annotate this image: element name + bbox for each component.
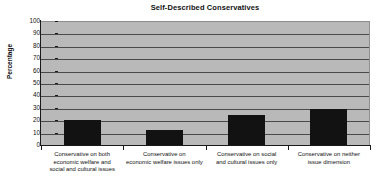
bar <box>228 115 265 145</box>
y-axis-tick-mark <box>55 133 58 134</box>
x-axis-category-label: Conservative on botheconomic welfare and… <box>41 151 123 185</box>
category-label-line: economic welfare and <box>43 159 121 167</box>
y-axis-title: Percentage <box>6 29 13 95</box>
gridline <box>41 96 369 97</box>
y-axis-tick-label: 90 <box>22 30 40 36</box>
category-label-line: issue dimension <box>290 159 368 167</box>
x-axis-tick-mark <box>41 146 42 150</box>
gridline <box>41 84 369 85</box>
category-label-line: Conservative on neither <box>290 151 368 159</box>
y-axis-tick-mark <box>55 46 58 47</box>
x-axis-category-label: Conservative oneconomic welfare issues o… <box>123 151 205 185</box>
category-label-line: economic welfare issues only <box>125 159 203 167</box>
plot-area <box>41 21 370 145</box>
bar <box>64 120 101 145</box>
y-axis-tick-label: 60 <box>22 68 40 74</box>
x-axis-tick-mark <box>370 146 371 150</box>
chart-title: Self-Described Conservatives <box>40 3 370 13</box>
category-label-line: Conservative on <box>125 151 203 159</box>
bar <box>146 130 183 145</box>
category-label-line: social and cultural issues <box>43 166 121 174</box>
y-axis-tick-label: 80 <box>22 43 40 49</box>
y-axis-tick-label: 100 <box>22 18 40 24</box>
y-axis-tick-label: 0 <box>22 142 40 148</box>
bar <box>310 109 347 145</box>
y-axis-tick-label: 30 <box>22 105 40 111</box>
category-label-line: and cultural issues only <box>208 159 286 167</box>
x-axis-tick-mark <box>123 146 124 150</box>
bar-chart: Self-Described Conservatives Percentage … <box>0 0 384 187</box>
category-label-line: Conservative on both <box>43 151 121 159</box>
x-axis-tick-mark <box>206 146 207 150</box>
y-axis-tick-mark <box>55 108 58 109</box>
y-axis-tick-label: 10 <box>22 130 40 136</box>
y-axis-tick-mark <box>55 120 58 121</box>
y-axis-tick-label: 50 <box>22 80 40 86</box>
y-axis-tick-mark <box>55 21 58 22</box>
x-axis-category-labels: Conservative on botheconomic welfare and… <box>41 151 370 185</box>
x-axis-category-label: Conservative on neitherissue dimension <box>288 151 370 185</box>
category-label-line: Conservative on social <box>208 151 286 159</box>
y-axis-tick-label: 40 <box>22 92 40 98</box>
y-axis-tick-mark <box>55 58 58 59</box>
gridline <box>41 34 369 35</box>
y-axis-tick-labels: 1009080706050403020100 <box>18 0 40 187</box>
y-axis-tick-label: 70 <box>22 55 40 61</box>
y-axis-tick-mark <box>55 71 58 72</box>
x-axis-category-label: Conservative on socialand cultural issue… <box>206 151 288 185</box>
y-axis-line <box>40 20 41 146</box>
y-axis-tick-mark <box>55 95 58 96</box>
y-axis-tick-mark <box>55 33 58 34</box>
gridline <box>41 72 369 73</box>
y-axis-tick-label: 20 <box>22 117 40 123</box>
y-axis-tick-mark <box>55 145 58 146</box>
y-axis-tick-mark <box>55 83 58 84</box>
gridline <box>41 47 369 48</box>
gridline <box>41 59 369 60</box>
x-axis-tick-mark <box>288 146 289 150</box>
